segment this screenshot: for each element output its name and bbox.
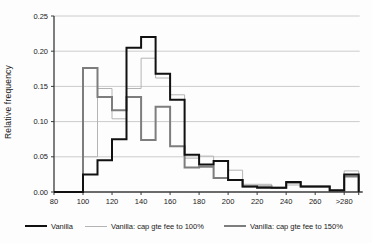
legend-item-1: Vanilla: cap gte fee to 100%: [85, 219, 204, 233]
y-tick-label: 0.00: [33, 188, 48, 197]
x-tick-label: 240: [280, 197, 293, 206]
series-line-0: [54, 58, 359, 192]
y-tick-label: 0.20: [33, 47, 48, 56]
x-tick-label: 140: [135, 197, 148, 206]
y-tick-label: 0.05: [33, 152, 48, 161]
legend-label: Vanilla: cap gte fee to 100%: [111, 222, 204, 231]
y-tick-label: 0.25: [33, 12, 48, 21]
legend: VanillaVanilla: cap gte fee to 100%Vanil…: [0, 219, 372, 235]
legend-line-swatch: [85, 226, 107, 227]
x-tick-label: 260: [309, 197, 322, 206]
x-tick-label: >280: [336, 197, 353, 206]
series-line-2: [54, 37, 359, 192]
legend-line-swatch: [224, 225, 246, 227]
legend-line-swatch: [25, 225, 47, 227]
chart-figure: Relative frequency 0.000.050.100.150.200…: [0, 0, 372, 243]
legend-item-2: Vanilla: cap gte fee to 150%: [224, 219, 343, 233]
x-tick-label: 100: [77, 197, 90, 206]
chart-canvas: 0.000.050.100.150.200.258010012014016018…: [0, 0, 372, 243]
y-tick-label: 0.15: [33, 82, 48, 91]
x-tick-label: 180: [193, 197, 206, 206]
x-tick-label: 220: [251, 197, 264, 206]
x-tick-label: 120: [106, 197, 119, 206]
x-tick-label: 80: [50, 197, 58, 206]
legend-label: Vanilla: cap gte fee to 150%: [250, 222, 343, 231]
x-tick-label: 160: [164, 197, 177, 206]
x-tick-label: 200: [222, 197, 235, 206]
legend-label: Vanilla: [51, 222, 73, 231]
y-tick-label: 0.10: [33, 117, 48, 126]
legend-item-0: Vanilla: [25, 219, 73, 233]
